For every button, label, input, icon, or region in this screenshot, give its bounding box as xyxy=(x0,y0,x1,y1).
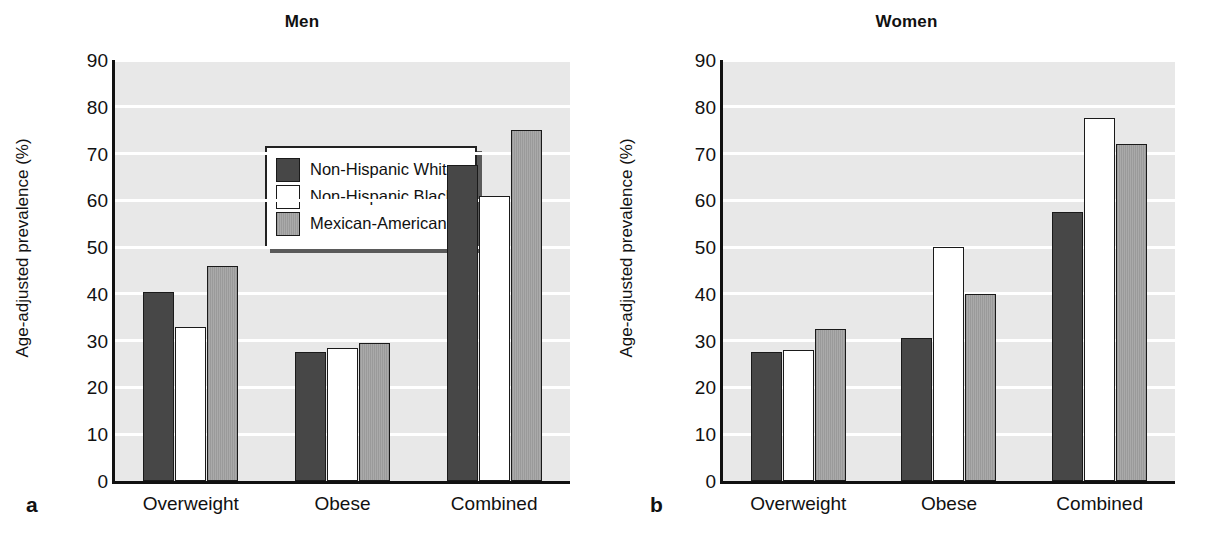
y-axis-tick-label: 30 xyxy=(695,331,716,350)
bar xyxy=(207,266,238,481)
legend-swatch-icon xyxy=(276,185,300,209)
figure-container: Men Age-adjusted prevalence (%) Overweig… xyxy=(0,0,1209,536)
bar xyxy=(175,327,206,481)
y-axis-tick-label: 20 xyxy=(87,378,108,397)
y-axis-tick-label: 60 xyxy=(695,191,716,210)
bar xyxy=(359,343,390,481)
y-axis-tick-label: 20 xyxy=(695,378,716,397)
y-axis-label-text-men: Age-adjusted prevalence (%) xyxy=(13,138,33,357)
bar xyxy=(143,292,174,481)
bar xyxy=(783,350,814,481)
x-axis-category-label: Combined xyxy=(451,493,538,515)
panel-men: Men Age-adjusted prevalence (%) Overweig… xyxy=(0,0,604,536)
y-axis-tick-label: 10 xyxy=(695,425,716,444)
legend-swatch-icon xyxy=(276,212,300,236)
y-axis-tick-label: 40 xyxy=(695,284,716,303)
y-axis-tick-label: 90 xyxy=(87,51,108,70)
bar xyxy=(447,165,478,481)
x-axis-category-label: Overweight xyxy=(750,493,846,515)
bar xyxy=(511,130,542,481)
gridline xyxy=(115,152,570,155)
y-axis-tick-label: 0 xyxy=(97,472,108,491)
panel-title-women: Women xyxy=(604,12,1209,32)
bar xyxy=(901,338,932,481)
bar-group: Overweight xyxy=(115,60,267,481)
bar-group: Obese xyxy=(874,60,1025,481)
bar xyxy=(1052,212,1083,481)
x-axis-category-label: Combined xyxy=(1056,493,1143,515)
panel-women: Women Age-adjusted prevalence (%) Overwe… xyxy=(604,0,1209,536)
y-axis-tick-label: 70 xyxy=(87,144,108,163)
legend-item: Non-Hispanic White xyxy=(276,156,466,183)
x-axis-category-label: Obese xyxy=(314,493,370,515)
bar-group: Combined xyxy=(418,60,570,481)
y-axis-tick-label: 10 xyxy=(87,425,108,444)
y-axis-tick-label: 70 xyxy=(695,144,716,163)
bars-women: OverweightObeseCombined xyxy=(723,60,1175,481)
plot-area-women: OverweightObeseCombined 0102030405060708… xyxy=(720,60,1175,484)
y-axis-tick-label: 50 xyxy=(695,238,716,257)
legend-swatch-icon xyxy=(276,158,300,182)
bar xyxy=(1116,144,1147,481)
y-axis-tick-label: 50 xyxy=(87,238,108,257)
x-axis-category-label: Overweight xyxy=(143,493,239,515)
plot-area-men: OverweightObeseCombined Non-Hispanic Whi… xyxy=(112,60,570,484)
y-axis-tick-label: 80 xyxy=(695,97,716,116)
y-axis-tick-label: 80 xyxy=(87,97,108,116)
bar-group: Overweight xyxy=(723,60,874,481)
bar xyxy=(1084,118,1115,481)
gridline xyxy=(115,59,570,62)
x-axis-category-label: Obese xyxy=(921,493,977,515)
panel-title-men: Men xyxy=(0,12,604,32)
y-axis-label-text-women: Age-adjusted prevalence (%) xyxy=(617,138,637,357)
bar xyxy=(327,348,358,481)
bar xyxy=(815,329,846,481)
legend-item: Mexican-American xyxy=(276,210,466,237)
bar xyxy=(479,196,510,481)
bar xyxy=(965,294,996,481)
panel-letter-b: b xyxy=(650,493,663,517)
legend-item: Non-Hispanic Black xyxy=(276,183,466,210)
panel-letter-a: a xyxy=(26,493,38,517)
y-axis-label-women: Age-adjusted prevalence (%) xyxy=(612,0,642,536)
bar xyxy=(295,352,326,481)
gridline xyxy=(723,59,1175,62)
legend-item-label: Mexican-American xyxy=(310,214,447,233)
bar-group: Combined xyxy=(1024,60,1175,481)
bar xyxy=(933,247,964,481)
gridline xyxy=(115,105,570,108)
y-axis-tick-label: 40 xyxy=(87,284,108,303)
y-axis-tick-label: 0 xyxy=(705,472,716,491)
bar xyxy=(751,352,782,481)
y-axis-tick-label: 60 xyxy=(87,191,108,210)
gridline xyxy=(723,105,1175,108)
legend-item-label: Non-Hispanic Black xyxy=(310,187,454,206)
y-axis-tick-label: 90 xyxy=(695,51,716,70)
bar-group: Obese xyxy=(267,60,419,481)
bars-men: OverweightObeseCombined xyxy=(115,60,570,481)
legend-men: Non-Hispanic White Non-Hispanic Black Me… xyxy=(265,146,477,248)
legend-item-label: Non-Hispanic White xyxy=(310,160,456,179)
y-axis-label-men: Age-adjusted prevalence (%) xyxy=(8,0,38,536)
y-axis-tick-label: 30 xyxy=(87,331,108,350)
